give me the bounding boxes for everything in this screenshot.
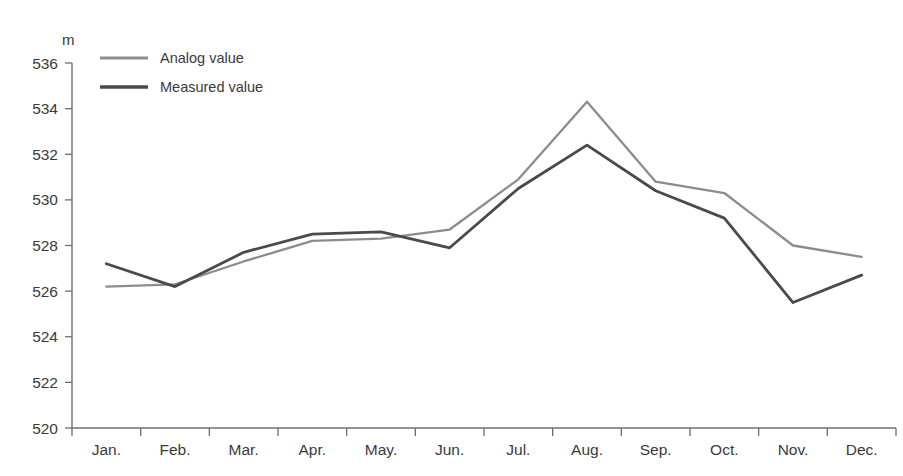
y-tick-label: 530 xyxy=(32,191,58,208)
x-tick-label: Nov. xyxy=(778,441,809,458)
x-tick-label: Mar. xyxy=(229,441,259,458)
x-tick-label: Jul. xyxy=(506,441,530,458)
x-tick-label: Aug. xyxy=(571,441,603,458)
line-chart: m 520522524526528530532534536 Jan.Feb.Ma… xyxy=(0,0,903,476)
y-tick-label: 528 xyxy=(32,237,58,254)
y-axis-ticks: 520522524526528530532534536 xyxy=(32,55,72,437)
legend-label-analog-value: Analog value xyxy=(160,50,244,66)
y-tick-label: 524 xyxy=(32,328,58,345)
y-tick-label: 526 xyxy=(32,283,58,300)
x-tick-label: Jan. xyxy=(92,441,121,458)
series-lines xyxy=(106,102,861,303)
y-tick-label: 532 xyxy=(32,146,58,163)
series-line-measured-value xyxy=(106,145,861,302)
x-tick-label: May. xyxy=(365,441,397,458)
x-tick-label: Oct. xyxy=(710,441,738,458)
series-line-analog-value xyxy=(106,102,861,287)
y-tick-label: 522 xyxy=(32,374,58,391)
x-tick-label: Jun. xyxy=(435,441,464,458)
y-tick-label: 536 xyxy=(32,55,58,72)
chart-legend: Analog valueMeasured value xyxy=(100,50,263,95)
chart-container: m 520522524526528530532534536 Jan.Feb.Ma… xyxy=(0,0,903,476)
y-tick-label: 534 xyxy=(32,100,58,117)
y-axis-unit-group: m xyxy=(62,31,75,48)
x-tick-label: Dec. xyxy=(846,441,878,458)
y-axis-unit-label: m xyxy=(62,31,75,48)
legend-label-measured-value: Measured value xyxy=(160,79,263,95)
x-tick-label: Sep. xyxy=(640,441,672,458)
y-tick-label: 520 xyxy=(32,420,58,437)
x-tick-label: Apr. xyxy=(299,441,327,458)
x-tick-label: Feb. xyxy=(159,441,190,458)
x-axis-ticks: Jan.Feb.Mar.Apr.May.Jun.Jul.Aug.Sep.Oct.… xyxy=(72,428,896,458)
